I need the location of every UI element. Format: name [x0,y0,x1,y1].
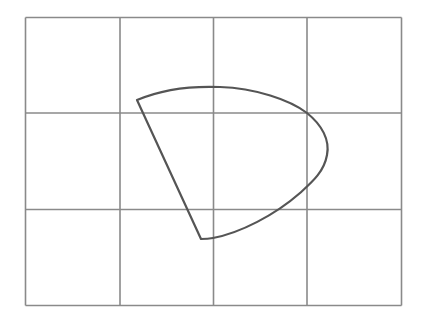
diagram-canvas [0,0,422,320]
grid [26,18,402,306]
curved-shape [137,87,328,239]
